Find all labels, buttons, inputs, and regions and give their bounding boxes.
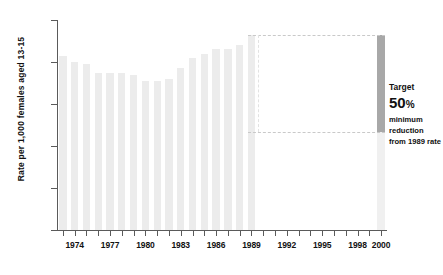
x-tick-mark (204, 231, 205, 236)
y-axis-title: Rate per 1,000 females aged 13-15 (16, 4, 26, 214)
bar (201, 54, 208, 230)
x-tick-mark (287, 231, 288, 236)
target-annotation: Target 50% minimum reduction from 1989 r… (389, 82, 443, 147)
bar (154, 81, 161, 230)
x-tick-mark (86, 231, 87, 236)
x-tick-mark (157, 231, 158, 236)
x-tick-mark (110, 231, 111, 236)
x-tick-mark (275, 231, 276, 236)
bar (189, 58, 196, 230)
x-tick-mark (310, 231, 311, 236)
x-tick-mark (122, 231, 123, 236)
x-tick-mark (63, 231, 64, 236)
annotation-value-unit: % (406, 99, 415, 110)
x-tick-label: 1980 (125, 241, 165, 250)
annotation-title: Target (389, 82, 443, 93)
x-tick-mark (228, 231, 229, 236)
x-tick-mark (216, 231, 217, 236)
annotation-value-number: 50 (389, 94, 406, 111)
bar (118, 73, 125, 231)
x-tick-mark (299, 231, 300, 236)
x-tick-mark (358, 231, 359, 236)
bar (95, 73, 102, 231)
y-tick-mark (51, 230, 57, 231)
x-tick-mark (263, 231, 264, 236)
x-axis-line (57, 230, 387, 231)
reference-line (248, 132, 385, 133)
annotation-value: 50% (389, 94, 443, 112)
x-tick-label: 1983 (161, 241, 201, 250)
bar (142, 81, 149, 230)
x-tick-label: 1986 (196, 241, 236, 250)
x-tick-label: 1989 (231, 241, 271, 250)
chart-root: Rate per 1,000 females aged 13-15 108642… (0, 0, 443, 275)
bar (236, 45, 243, 230)
bar (106, 73, 113, 231)
x-tick-mark (75, 231, 76, 236)
x-tick-label: 1992 (267, 241, 307, 250)
bar (59, 56, 66, 230)
x-tick-mark (169, 231, 170, 236)
x-tick-mark (145, 231, 146, 236)
x-tick-mark (181, 231, 182, 236)
x-tick-label: 1977 (90, 241, 130, 250)
x-tick-mark (334, 231, 335, 236)
x-tick-label: 1995 (302, 241, 342, 250)
x-tick-mark (193, 231, 194, 236)
x-tick-mark (134, 231, 135, 236)
x-tick-label: 2000 (361, 241, 401, 250)
x-tick-mark (322, 231, 323, 236)
bar (177, 68, 184, 230)
x-tick-mark (346, 231, 347, 236)
bar (71, 62, 78, 230)
bar (165, 79, 172, 230)
x-tick-mark (251, 231, 252, 236)
reference-line (248, 35, 385, 36)
annotation-desc-line1: minimum reduction (389, 114, 443, 136)
bar (83, 64, 90, 230)
x-tick-mark (98, 231, 99, 236)
plot-area (57, 20, 387, 230)
projection-left-edge (258, 35, 259, 133)
annotation-desc-line2: from 1989 rate (389, 136, 443, 147)
x-tick-label: 1974 (55, 241, 95, 250)
x-tick-mark (240, 231, 241, 236)
bar (224, 49, 231, 230)
x-tick-mark (369, 231, 370, 236)
bar (212, 49, 219, 230)
bar (130, 75, 137, 230)
x-tick-mark (381, 231, 382, 236)
